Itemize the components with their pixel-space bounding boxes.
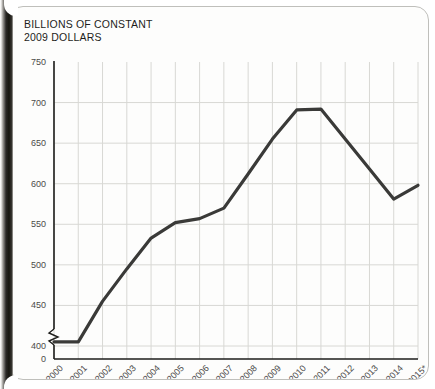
plot-area: 7507006506005505004504000 20002001200220… (10, 7, 429, 380)
y-tick-label: 600 (12, 179, 46, 189)
chart-figure-panel: BILLIONS OF CONSTANT 2009 DOLLARS 750700… (9, 6, 429, 380)
y-tick-label: 0 (12, 354, 46, 364)
y-tick-label: 550 (12, 219, 46, 229)
chart-axes (54, 61, 418, 359)
y-tick-label: 700 (12, 98, 46, 108)
y-tick-label: 400 (12, 341, 46, 351)
y-tick-label: 750 (12, 57, 46, 67)
vertical-gridlines (54, 62, 418, 359)
y-tick-label: 500 (12, 260, 46, 270)
page-gutter-shadow (0, 0, 13, 389)
y-tick-label: 450 (12, 300, 46, 310)
data-series-line (54, 109, 418, 342)
horizontal-gridlines (54, 103, 418, 346)
chart-svg (10, 7, 429, 380)
y-tick-label: 650 (12, 138, 46, 148)
